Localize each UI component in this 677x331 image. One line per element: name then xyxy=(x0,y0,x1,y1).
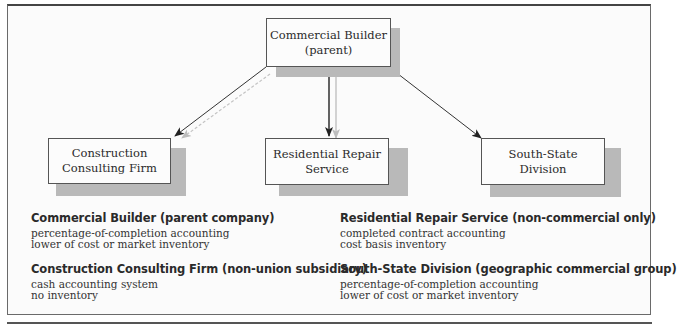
description-south-state: South-State Division (geographic commerc… xyxy=(340,262,677,300)
description-residential-repair: Residential Repair Service (non-commerci… xyxy=(340,211,656,249)
node-commercial-builder-label: Commercial Builder (parent) xyxy=(266,18,391,67)
edge-shadow-parent-consulting xyxy=(182,74,270,138)
description-title: South-State Division (geographic commerc… xyxy=(340,262,677,276)
description-line: cash accounting system xyxy=(31,279,367,290)
edge-parent-consulting xyxy=(175,67,266,136)
description-title: Construction Consulting Firm (non-union … xyxy=(31,262,367,276)
description-line: no inventory xyxy=(31,290,367,301)
description-commercial-builder: Commercial Builder (parent company) perc… xyxy=(31,211,274,249)
description-line: percentage-of-completion accounting xyxy=(31,228,274,239)
node-construction-consulting-label: Construction Consulting Firm xyxy=(48,138,171,184)
description-line: lower of cost or market inventory xyxy=(340,290,677,301)
description-title: Residential Repair Service (non-commerci… xyxy=(340,211,656,225)
description-title: Commercial Builder (parent company) xyxy=(31,211,274,225)
description-line: completed contract accounting xyxy=(340,228,656,239)
description-line: cost basis inventory xyxy=(340,239,656,250)
node-residential-repair-label: Residential Repair Service xyxy=(265,138,389,185)
description-line: lower of cost or market inventory xyxy=(31,239,274,250)
node-south-state-label: South-State Division xyxy=(481,138,605,185)
edge-parent-southstate xyxy=(389,67,481,138)
description-construction-consulting: Construction Consulting Firm (non-union … xyxy=(31,262,367,300)
description-line: percentage-of-completion accounting xyxy=(340,279,677,290)
